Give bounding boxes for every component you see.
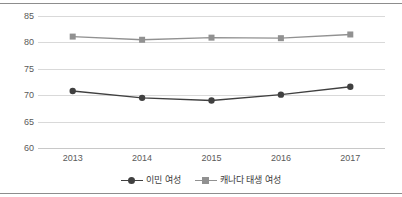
- data-point-0-2014[interactable]: [139, 95, 145, 101]
- data-point-1-2014[interactable]: [139, 37, 145, 43]
- data-point-0-2017[interactable]: [347, 84, 353, 90]
- x-tick-label-2015: 2015: [201, 153, 221, 163]
- legend-label-1: 캐나다 태생 여성: [220, 175, 281, 185]
- x-tick-label-2013: 2013: [63, 153, 83, 163]
- data-point-1-2015[interactable]: [209, 35, 215, 41]
- legend-label-0: 이민 여성: [146, 175, 181, 185]
- line-chart: 606570758085 20132014201520162017 이민 여성캐…: [0, 0, 402, 197]
- y-tick-label-60: 60: [4, 144, 34, 153]
- data-point-1-2016[interactable]: [278, 35, 284, 41]
- legend-marker-square: [195, 176, 217, 185]
- y-tick-label-85: 85: [4, 12, 34, 21]
- gridline-60: [38, 148, 385, 149]
- y-tick-label-70: 70: [4, 91, 34, 100]
- y-tick-label-75: 75: [4, 65, 34, 74]
- y-axis-labels: 606570758085: [0, 16, 34, 148]
- chart-legend: 이민 여성캐나다 태생 여성: [0, 172, 402, 188]
- data-point-0-2013[interactable]: [70, 88, 76, 94]
- series-layer: [38, 16, 385, 148]
- x-tick-label-2017: 2017: [340, 153, 360, 163]
- y-tick-label-80: 80: [4, 38, 34, 47]
- data-point-1-2017[interactable]: [347, 31, 353, 37]
- chart-top-border: [0, 3, 402, 4]
- legend-square-icon: [202, 177, 209, 184]
- legend-marker-circle: [121, 176, 143, 185]
- x-tick-label-2016: 2016: [271, 153, 291, 163]
- legend-circle-icon: [128, 177, 135, 184]
- data-point-0-2016[interactable]: [278, 91, 284, 97]
- x-tick-label-2014: 2014: [132, 153, 152, 163]
- chart-bottom-border: [0, 193, 402, 194]
- data-point-0-2015[interactable]: [208, 97, 214, 103]
- legend-item-1[interactable]: 캐나다 태생 여성: [195, 175, 281, 185]
- plot-area: [38, 16, 385, 148]
- legend-item-0[interactable]: 이민 여성: [121, 175, 181, 185]
- x-axis-labels: 20132014201520162017: [38, 153, 385, 167]
- data-point-1-2013[interactable]: [70, 34, 76, 40]
- y-tick-label-65: 65: [4, 118, 34, 127]
